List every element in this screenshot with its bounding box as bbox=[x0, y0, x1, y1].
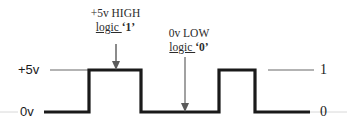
callout-high-line1: +5v HIGH bbox=[91, 7, 141, 19]
callout-low-line1: 0v LOW bbox=[169, 27, 210, 39]
level-label-logic-one: 1 bbox=[320, 62, 327, 78]
callout-low-level: 0v LOW logic ‘0’ bbox=[143, 26, 235, 54]
callout-low-line2: logic ‘0’ bbox=[143, 40, 235, 54]
logic-waveform-figure: +5v HIGH logic ‘1’ 0v LOW logic ‘0’ +5v … bbox=[0, 0, 347, 136]
axis-label-low-voltage: 0v bbox=[20, 104, 34, 119]
callout-low-logic-word: logic bbox=[169, 41, 195, 53]
level-label-logic-zero: 0 bbox=[320, 104, 327, 120]
axis-label-high-voltage: +5v bbox=[18, 62, 39, 77]
waveform-canvas bbox=[0, 0, 347, 136]
callout-high-logic-value: ‘1’ bbox=[122, 21, 135, 33]
callout-high-logic-word: logic bbox=[96, 21, 122, 33]
signal-trace bbox=[44, 70, 310, 112]
callout-low-logic-value: ‘0’ bbox=[195, 41, 208, 53]
